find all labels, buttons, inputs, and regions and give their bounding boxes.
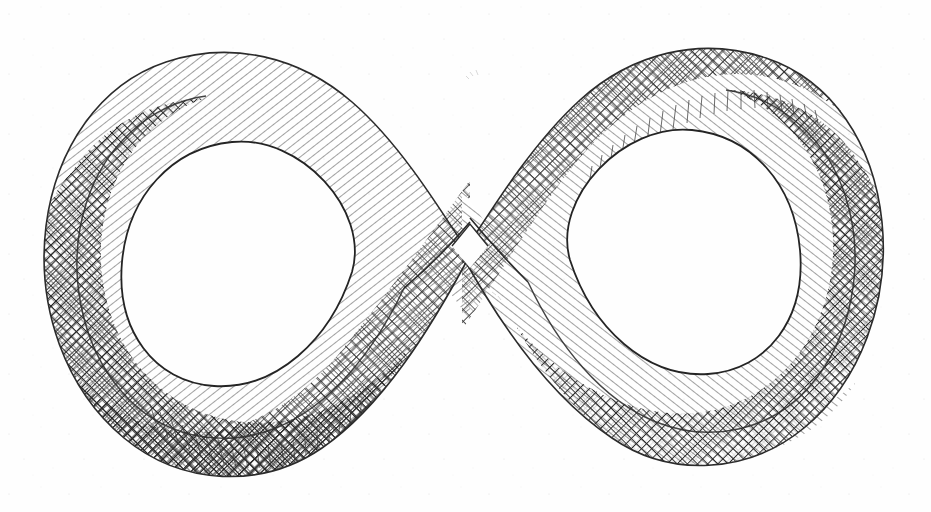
- mobius-strip-drawing: [0, 0, 931, 512]
- artboard: Mobius Strip (Infinity Band) Hand-drawn …: [0, 0, 931, 512]
